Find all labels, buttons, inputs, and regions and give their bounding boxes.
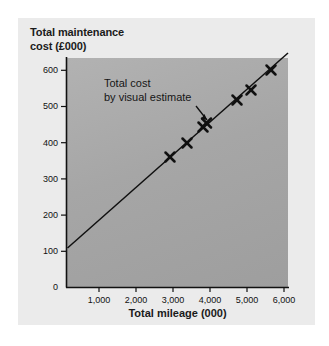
y-tick-label-600: 600 — [24, 65, 58, 75]
data-point-marker — [247, 86, 256, 95]
x-tick-label-6000: 6,000 — [264, 295, 304, 305]
y-tick-label-300: 300 — [24, 174, 58, 184]
visual-estimate-line — [68, 53, 289, 248]
x-tick-label-3000: 3,000 — [153, 295, 193, 305]
data-point-marker — [166, 153, 175, 162]
y-tick-label-200: 200 — [24, 210, 58, 220]
x-axis-title: Total mileage (000) — [67, 307, 288, 319]
chart-figure: Total maintenance cost (£000) Total cost… — [0, 0, 329, 346]
y-tick-label-100: 100 — [24, 246, 58, 256]
x-tick-label-4000: 4,000 — [190, 295, 230, 305]
y-tick-label-500: 500 — [24, 101, 58, 111]
x-tick-label-1000: 1,000 — [79, 295, 119, 305]
y-axis-ticks — [61, 70, 66, 251]
y-tick-label-0: 0 — [24, 282, 58, 292]
x-tick-label-2000: 2,000 — [116, 295, 156, 305]
y-tick-label-400: 400 — [24, 138, 58, 148]
x-tick-label-5000: 5,000 — [227, 295, 267, 305]
data-point-marker — [183, 139, 192, 148]
